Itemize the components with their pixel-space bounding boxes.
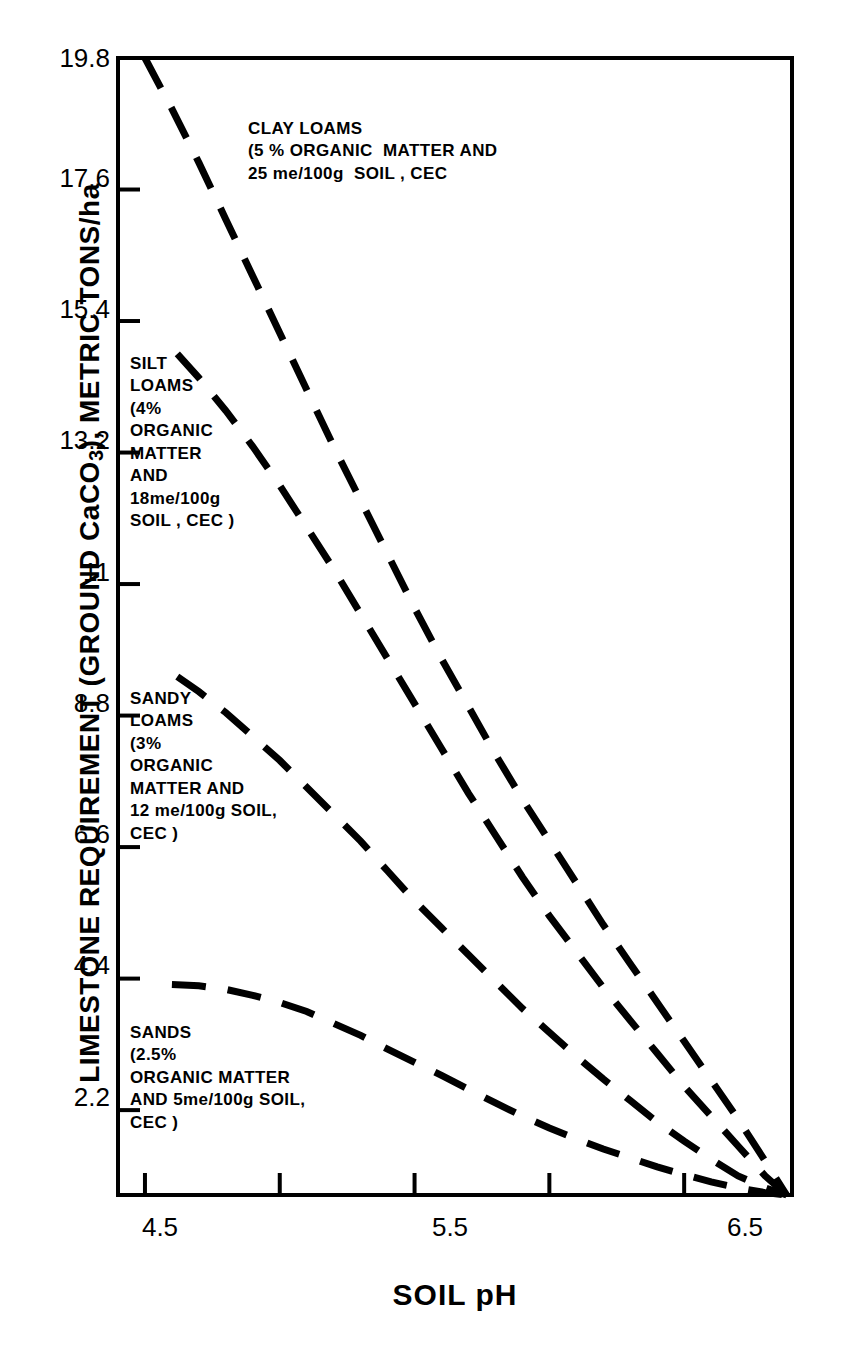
axis-frame-path bbox=[118, 58, 792, 1195]
axis-frame bbox=[118, 58, 792, 1195]
curve-sandy-loams bbox=[177, 677, 786, 1195]
curve-silt-loams bbox=[177, 354, 786, 1195]
curve-sands bbox=[172, 985, 787, 1195]
x-tick-marks bbox=[145, 1173, 684, 1195]
y-tick-marks bbox=[118, 58, 140, 1110]
curve-clay-loams bbox=[145, 58, 787, 1195]
chart-figure: LIMESTONE REQUIREMENT (GROUND CaCO3), ME… bbox=[0, 0, 842, 1357]
plot-area bbox=[0, 0, 842, 1357]
data-curves bbox=[145, 58, 787, 1195]
